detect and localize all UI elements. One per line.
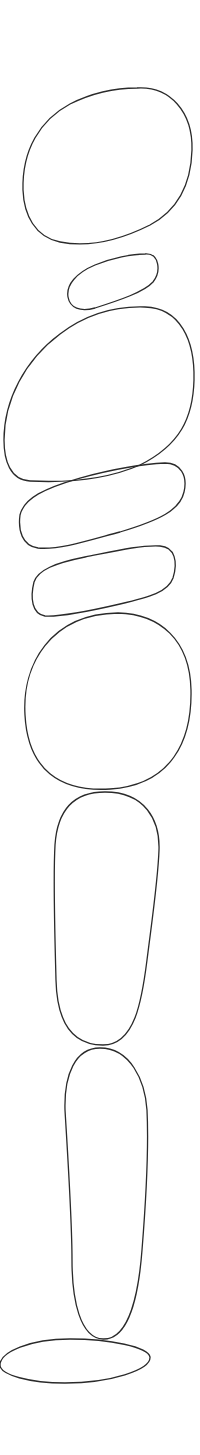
stone-1-tilted-egg [23, 88, 192, 244]
stone-6-round-boulder [25, 613, 191, 789]
stone-stack-figure [0, 0, 200, 1455]
stone-7-tall-capsule [54, 792, 159, 1045]
stone-8-tall-tapered-capsule [65, 1048, 148, 1339]
stone-9-base-ellipse [0, 1339, 150, 1383]
stone-3-large-tilted-egg [4, 307, 194, 482]
stone-4-flat-oval [20, 463, 185, 548]
stone-2-small-pebble [68, 254, 158, 310]
stone-stack-drawing [0, 0, 200, 1455]
stone-5-flat-rounded-rect [32, 546, 175, 616]
